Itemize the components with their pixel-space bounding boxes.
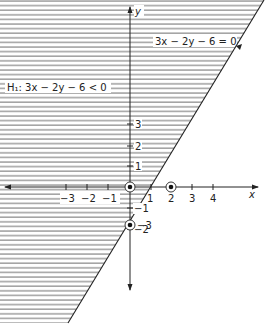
x-tick-label: −1 (102, 193, 117, 204)
x-tick-label: −3 (60, 193, 75, 204)
diagram-canvas: −3 −2 −1 1 2 3 4 3 2 1 −1 −2 −3 y x 3x −… (0, 0, 267, 330)
point-y-intercept (125, 220, 135, 230)
inequality-label: H₁: 3x − 2y − 6 < 0 (7, 82, 107, 93)
y-tick-label: −1 (134, 203, 149, 214)
point-origin (125, 182, 135, 192)
x-tick-label: 4 (210, 193, 216, 204)
x-tick-label: 3 (189, 193, 195, 204)
y-tick-label: 1 (135, 161, 141, 172)
x-tick-label: 2 (168, 193, 174, 204)
point-x-intercept (166, 182, 176, 192)
y-tick-label: 2 (135, 141, 141, 152)
y-tick-label: −3 (137, 220, 152, 231)
boundary-line-label: 3x − 2y − 6 = 0 (155, 36, 237, 47)
x-tick-label: −2 (81, 193, 96, 204)
y-axis-label: y (134, 6, 142, 17)
shaded-half-plane (0, 0, 267, 330)
half-plane-diagram: −3 −2 −1 1 2 3 4 3 2 1 −1 −2 −3 y x 3x −… (0, 0, 267, 330)
y-axis-down-arrow-icon (128, 284, 133, 291)
y-tick-label: 3 (135, 119, 141, 130)
x-axis-label: x (248, 189, 255, 200)
